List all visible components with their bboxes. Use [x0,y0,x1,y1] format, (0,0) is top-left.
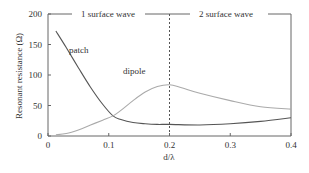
dipole-curve [56,85,291,135]
y-tick-label: 50 [33,101,43,111]
patch-label: patch [69,45,89,55]
y-tick-label: 150 [29,40,43,50]
x-tick-label: 0.4 [285,140,297,150]
y-axis-label: Resonant resistance (Ω) [14,33,24,119]
y-tick-label: 100 [29,70,43,80]
resonant-resistance-chart: 00.10.20.30.4050100150200 patch dipole 1… [0,0,309,173]
dipole-label: dipole [123,66,146,76]
data-series [56,31,291,135]
region-2-label: 2 surface wave [199,9,253,19]
y-tick-label: 200 [29,9,43,19]
x-axis-label: d/λ [163,152,175,162]
x-tick-label: 0.3 [225,140,237,150]
x-tick-label: 0.1 [103,140,114,150]
y-tick-label: 0 [38,131,43,141]
region-1-label: 1 surface wave [81,9,135,19]
x-tick-label: 0 [46,140,51,150]
axis-ticks: 00.10.20.30.4050100150200 [29,9,298,150]
x-tick-label: 0.2 [164,140,175,150]
patch-curve [56,31,291,125]
axes [48,14,291,136]
